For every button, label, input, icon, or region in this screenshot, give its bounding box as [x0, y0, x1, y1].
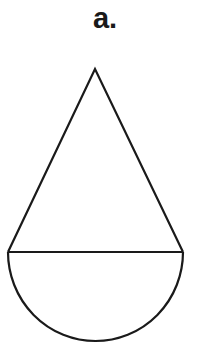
- triangle-sides: [8, 69, 183, 252]
- cone-diagram: [0, 0, 198, 356]
- semicircle-arc: [8, 252, 183, 341]
